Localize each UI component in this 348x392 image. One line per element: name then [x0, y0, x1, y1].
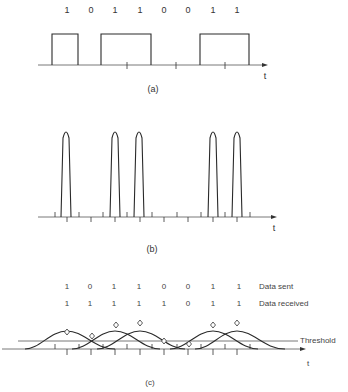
bit-label: 1: [112, 282, 117, 291]
panel-c-caption: (c): [145, 378, 155, 387]
axis-arrow-icon: [271, 215, 277, 219]
sample-diamond-icon: [65, 329, 70, 335]
bit-label: 0: [88, 282, 93, 291]
bit-label: 1: [210, 5, 215, 15]
sample-diamond-icon: [187, 341, 192, 347]
sample-diamond-icon: [235, 320, 240, 326]
sample-diamond-icon: [211, 322, 216, 328]
panel-a-caption: (a): [148, 84, 159, 94]
signal-diagram: 1 0 1 1 0 0 1 1 t (a): [0, 0, 348, 392]
bit-label: 1: [237, 299, 242, 308]
broadened-pulses: [25, 331, 285, 349]
panel-b-axis-label: t: [273, 223, 276, 233]
rz-pulse: [208, 132, 218, 217]
panel-c-axis-label: t: [307, 359, 310, 368]
broadened-pulse: [195, 331, 285, 349]
bit-label: 1: [88, 299, 93, 308]
rz-pulse: [61, 132, 71, 217]
rz-pulse: [110, 132, 120, 217]
broadened-pulse: [72, 331, 160, 349]
broadened-pulse: [97, 331, 185, 349]
data-received-row: 1 1 1 1 1 0 1 1 Data received: [65, 299, 309, 308]
bit-label: 1: [211, 282, 216, 291]
bit-label: 1: [211, 299, 216, 308]
data-received-label: Data received: [259, 299, 308, 308]
rz-pulse: [134, 132, 144, 217]
sample-diamond-icon: [138, 320, 143, 326]
axis-arrow-icon: [300, 347, 306, 351]
bit-label: 0: [185, 5, 190, 15]
bit-label: 1: [162, 299, 167, 308]
panel-a-axis-label: t: [264, 71, 267, 81]
sample-diamond-icon: [114, 322, 119, 328]
bit-label: 0: [88, 5, 93, 15]
panel-b: t (b): [38, 132, 277, 254]
bit-label: 1: [234, 5, 239, 15]
broadened-pulse: [25, 331, 115, 349]
axis-arrow-icon: [262, 63, 268, 67]
bit-label: 1: [65, 299, 70, 308]
bit-label: 0: [186, 299, 191, 308]
bit-label: 0: [161, 5, 166, 15]
bit-label: 1: [137, 282, 142, 291]
data-sent-row: 1 0 1 1 0 0 1 1 Data sent: [65, 282, 294, 291]
rz-pulses: [61, 132, 242, 217]
data-sent-label: Data sent: [259, 282, 294, 291]
bit-label: 1: [137, 299, 142, 308]
bit-label: 1: [65, 282, 70, 291]
panel-c: 1 0 1 1 0 0 1 1 Data sent 1 1 1 1 1 0 1 …: [2, 282, 336, 387]
bit-label: 1: [237, 282, 242, 291]
nrz-waveform: [52, 34, 249, 65]
rz-pulse: [232, 132, 242, 217]
bit-label: 1: [112, 299, 117, 308]
bit-label: 1: [137, 5, 142, 15]
bit-label: 0: [186, 282, 191, 291]
panel-b-caption: (b): [147, 244, 158, 254]
panel-a-bit-labels: 1 0 1 1 0 0 1 1: [64, 5, 239, 15]
bit-label: 1: [112, 5, 117, 15]
threshold-label: Threshold: [300, 336, 336, 345]
broadened-pulse: [170, 331, 258, 349]
bit-label: 0: [162, 282, 167, 291]
sample-diamond-icon: [90, 333, 95, 339]
panel-a: 1 0 1 1 0 0 1 1 t (a): [38, 5, 268, 94]
bit-label: 1: [64, 5, 69, 15]
sample-diamond-icon: [162, 338, 167, 344]
